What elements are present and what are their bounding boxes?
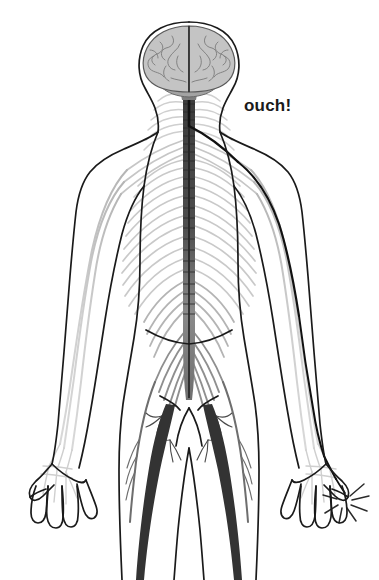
ouch-annotation: ouch! <box>244 97 291 114</box>
spinal-cord <box>183 86 195 400</box>
nervous-system-figure: ouch! <box>0 0 379 580</box>
nervous-system-diagram <box>0 0 379 580</box>
